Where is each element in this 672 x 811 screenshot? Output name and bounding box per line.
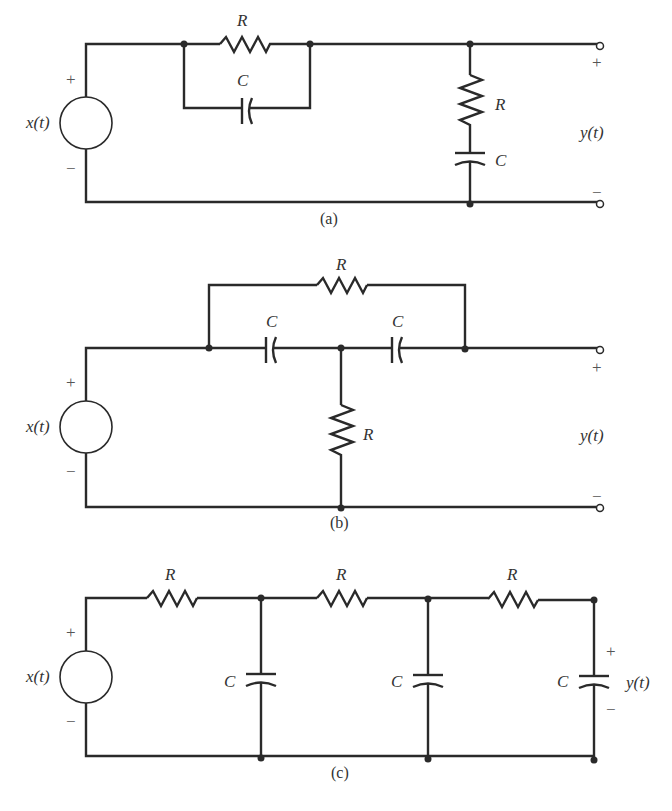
component-label: R [362,425,374,444]
source-label: x(t) [25,667,50,686]
node-dot [338,345,345,352]
node-dot [258,595,265,602]
plus-sign: + [592,53,602,72]
minus-sign: − [606,700,616,719]
minus-sign: − [66,159,76,178]
node-dot [307,41,314,48]
component-label: R [164,565,176,584]
resistor-icon [220,37,310,52]
output-label: y(t) [624,673,650,692]
component-label: C [557,672,569,691]
panel-caption: (a) [320,210,338,228]
plus-sign: + [66,623,76,642]
source-label: x(t) [25,417,50,436]
node-dot [181,41,188,48]
minus-sign: − [66,462,76,481]
node-dot [338,505,345,512]
minus-sign: − [66,712,76,731]
minus-sign: − [592,487,602,506]
component-label: C [391,672,403,691]
plus-sign: + [592,358,602,377]
resistor-icon [317,591,367,606]
circuit-b: R C C R x(t) + − y(t) + − (b) [25,255,604,532]
voltage-source-icon [60,651,112,703]
panel-caption: (b) [330,514,349,532]
resistor-icon [317,278,367,293]
node-dot [206,345,213,352]
component-label: C [224,672,236,691]
component-label: R [236,11,248,30]
source-label: x(t) [25,113,50,132]
voltage-source-icon [60,401,112,453]
plus-sign: + [606,642,616,661]
node-dot [258,755,265,762]
node-dot [425,756,432,763]
output-label: y(t) [578,123,604,142]
node-dot [467,41,474,48]
capacitor-icon [392,337,402,363]
circuit-c: R C R C R C x(t) + − y(t) + − (c) [25,565,650,782]
resistor-icon [331,405,353,507]
panel-caption: (c) [331,764,349,782]
component-label: C [495,151,507,170]
resistor-icon [460,75,482,153]
node-dot [591,757,598,764]
circuit-a: R C R C x(t) + − y(t) + − (a) [25,11,604,228]
component-label: C [266,312,278,331]
output-label: y(t) [578,426,604,445]
capacitor-icon [266,337,276,363]
minus-sign: − [592,183,602,202]
node-dot [425,596,432,603]
capacitor-icon [242,98,252,124]
output-terminal [597,43,604,50]
circuit-figure: R C R C x(t) + − y(t) + − (a) [0,0,672,811]
output-terminal [597,347,604,354]
component-label: C [392,312,404,331]
voltage-source-icon [60,97,112,149]
component-label: C [237,71,249,90]
component-label: R [494,95,506,114]
node-dot [591,597,598,604]
resistor-icon [147,591,197,606]
node-dot [462,346,469,353]
component-label: R [506,565,518,584]
component-label: R [335,255,347,274]
node-dot [467,201,474,208]
plus-sign: + [66,373,76,392]
resistor-icon [488,592,538,607]
component-label: R [335,565,347,584]
plus-sign: + [66,70,76,89]
